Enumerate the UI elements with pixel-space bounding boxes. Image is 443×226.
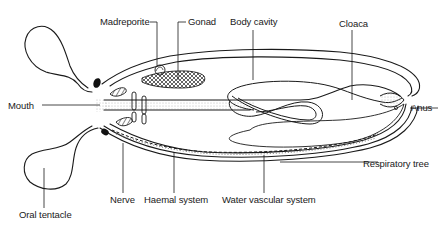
gonad: [142, 71, 205, 88]
label-madreporite: Madreporite: [100, 16, 150, 27]
label-cloaca: Cloaca: [339, 18, 368, 29]
label-body-cavity: Body cavity: [230, 16, 277, 27]
label-anus: Anus: [411, 102, 432, 113]
diagram-drawing: [0, 0, 443, 226]
gut-tube-upper: [104, 85, 400, 100]
sea-cucumber-diagram: Madreporite Gonad Body cavity Cloaca Mou…: [0, 0, 443, 226]
haemal-vessel: [112, 130, 378, 152]
label-respiratory-tree: Respiratory tree: [363, 158, 429, 169]
cloaca-stipple: [380, 93, 404, 107]
label-nerve: Nerve: [110, 194, 135, 205]
label-haemal-system: Haemal system: [144, 194, 208, 205]
label-mouth: Mouth: [8, 100, 34, 111]
lower-tentacle-outline: [24, 126, 98, 189]
upper-tentacle-outline: [25, 26, 92, 92]
label-water-vascular-system: Water vascular system: [222, 194, 316, 205]
ampulla-4: [142, 114, 146, 124]
nerve-ring-upper: [92, 77, 102, 89]
label-gonad: Gonad: [188, 16, 216, 27]
upper-organ: [110, 88, 126, 96]
gut-stipple: [104, 100, 254, 110]
label-oral-tentacle: Oral tentacle: [19, 209, 72, 220]
lower-organ: [116, 118, 132, 126]
